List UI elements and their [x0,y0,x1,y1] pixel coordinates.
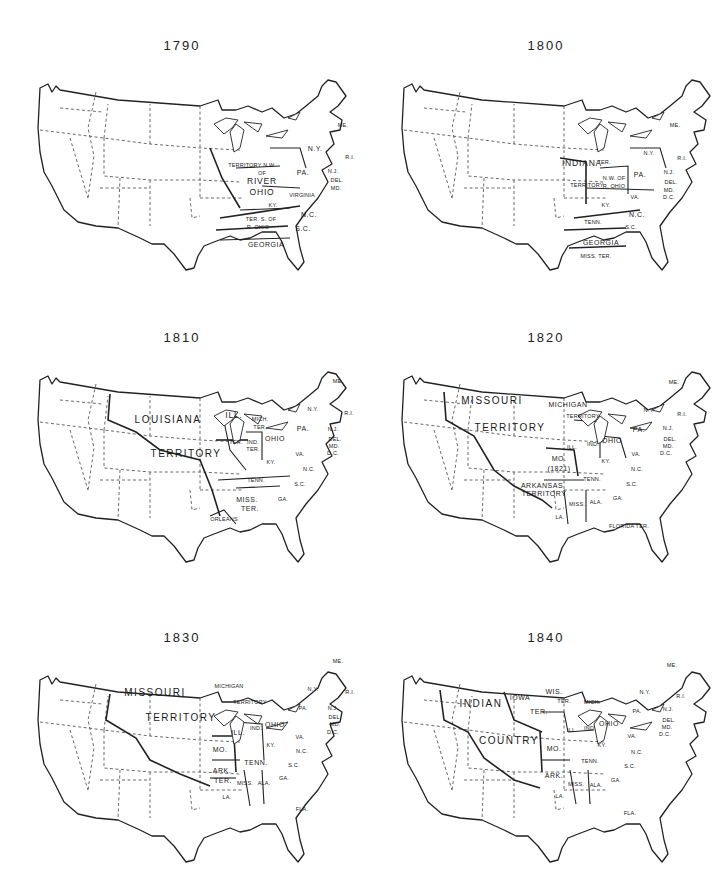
region-label: LA. [223,795,232,801]
region-label: RIVER [247,177,277,186]
region-label: D.C. [327,730,339,736]
region-label: WIS. [545,688,562,695]
region-label: KY. [269,203,278,209]
region-label: N.J. [328,706,339,712]
region-label: ALA. [590,500,603,506]
region-label: PA. [634,171,646,178]
region-label: D.C. [660,451,672,457]
region-label: ARKANSAS [521,482,563,489]
region-label: N.Y. [308,407,319,413]
region-label: TER. [214,777,232,784]
map-panel-1840: 1840INDIANCOUNTRYIOWATER.WIS.TER.MICH.IL… [364,630,728,880]
region-label: S.C. [295,225,311,232]
region-label: TER. [229,440,242,446]
region-label: MO. [547,745,562,752]
country-outline [402,672,710,862]
region-label: OHIO [599,720,619,727]
region-label: ME. [670,123,680,129]
region-label: TENN. [244,759,268,766]
territory-label: MISSOURI [124,688,185,698]
region-label: IND. [584,726,596,732]
region-label: N.J. [328,427,339,433]
region-label: ILL. [225,411,242,420]
region-label: R.I. [344,411,353,417]
region-label: OHIO [265,721,285,728]
country-outline [38,372,346,562]
region-label: ALA. [590,783,603,789]
region-label: IND. [247,440,259,446]
region-label: ARK. [545,772,563,779]
region-label: IOWA [510,694,530,701]
region-label: TER. [246,447,259,453]
region-label: MISS. [237,781,253,787]
region-label: N.J. [663,426,674,432]
region-label: N.Y. [644,151,655,157]
region-label: MICH. [584,700,601,706]
region-label: ARK. [213,767,231,774]
region-label: TERRITORY N.W. [228,163,276,169]
region-label: N.C. [631,750,643,756]
region-label: TER. [253,425,266,431]
region-label: ORLEANS [210,517,238,523]
region-label: R. OHIO [247,225,269,231]
map-panel-1790: 1790TERRITORY N.W.OFRIVEROHIOPA.N.Y.ME.R… [0,38,364,298]
region-label: FLORIDA TER. [609,524,649,530]
region-label: MD. [331,186,342,192]
region-label: KY. [267,743,276,749]
us-map-1810 [0,330,364,590]
region-label: TENN. [584,220,602,226]
region-label: R.I. [677,156,686,162]
region-label: TER. S. OF [246,217,276,223]
region-label: TERRITORY [566,414,599,420]
region-label: PA. [297,425,309,432]
region-label: MO. [552,455,567,462]
region-label: N.Y. [640,690,651,696]
region-label: VIRGINIA [289,193,315,199]
region-label: ME. [333,379,343,385]
region-label: IND. [250,726,262,732]
region-label: TER. [557,699,570,705]
map-panel-1800: 1800INDIANATER.TERRITORYN.W. OFR. OHIOPA… [364,38,728,298]
region-label: TERRITORY [233,700,266,706]
region-label: OHIO [602,437,622,444]
territory-label: COUNTRY [479,736,539,746]
us-map-1830 [0,630,364,880]
region-label: ILL. [567,728,577,734]
region-label: GA. [611,778,621,784]
region-label: MD. [329,444,340,450]
territory-label: TERRITORY [151,449,222,459]
region-label: GEORGIA [248,241,284,248]
region-label: GEORGIA [583,239,619,246]
region-label: MICH. [252,417,269,423]
region-label: OHIO [265,435,285,442]
region-label: KY. [267,460,276,466]
region-label: TER. [597,160,610,166]
region-label: D.C. [659,732,671,738]
region-label: GA. [279,776,289,782]
region-label: ILL. [231,729,245,736]
us-map-1790 [0,38,364,298]
map-panel-1820: 1820MISSOURITERRITORYMICHIGANTERRITORYIL… [364,330,728,590]
region-label: MO. [213,746,228,753]
region-label: DEL. [662,718,675,724]
territory-label: INDIAN [460,699,503,709]
region-label: N.W. OF [603,176,625,182]
region-label: TERRITORY [522,490,567,497]
region-label: MISS. [236,496,258,503]
region-label: VA. [627,734,636,740]
region-label: S.C. [625,225,637,231]
region-label: MISS. [568,782,584,788]
region-label: TER. [530,708,548,715]
region-label: DEL. [664,180,677,186]
region-label: MD. [330,722,341,728]
region-label: MISS. TER. [581,254,612,260]
territory-label: TERRITORY [146,713,217,723]
region-label: ME. [667,663,677,669]
region-label: S.C. [624,764,636,770]
region-label: R.I. [677,412,686,418]
region-label: VA. [631,452,640,458]
region-label: INDIANA [562,159,602,168]
region-label: S.C. [288,763,300,769]
region-label: OHIO [250,188,275,197]
region-label: LA. [556,794,565,800]
